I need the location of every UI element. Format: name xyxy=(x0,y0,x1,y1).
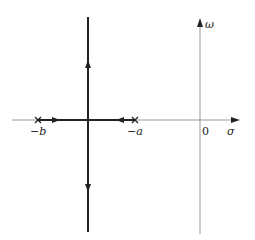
arrow-up-icon xyxy=(85,60,91,68)
pole-label-a: −a xyxy=(127,125,143,138)
origin-label: 0 xyxy=(202,125,209,138)
root-locus-diagram: −b −a 0 σ ω xyxy=(0,0,255,240)
real-axis-arrow-icon xyxy=(231,117,240,123)
arrow-right-icon xyxy=(52,117,60,123)
arrow-left-icon xyxy=(116,117,124,123)
pole-label-b: −b xyxy=(30,125,46,138)
real-axis-label: σ xyxy=(227,125,235,138)
imaginary-axis-label: ω xyxy=(205,18,214,31)
imaginary-axis-arrow-icon xyxy=(197,18,203,27)
arrow-down-icon xyxy=(85,184,91,192)
